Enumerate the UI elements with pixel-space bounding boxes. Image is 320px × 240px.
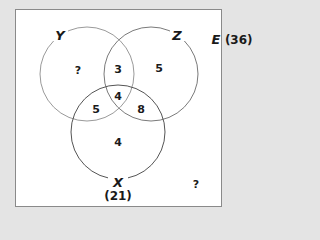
region-outside: ? bbox=[193, 179, 199, 190]
region-x-z-only: 8 bbox=[137, 104, 145, 115]
set-label-x: X bbox=[113, 176, 123, 189]
set-label-y: Y bbox=[55, 29, 64, 42]
universe-label: E (36) bbox=[211, 33, 252, 46]
region-x-y-z: 4 bbox=[114, 91, 122, 102]
region-y-z-only: 3 bbox=[114, 64, 122, 75]
region-y-only: ? bbox=[75, 65, 81, 76]
set-x-total: (21) bbox=[104, 190, 132, 202]
region-z-only: 5 bbox=[155, 63, 163, 74]
region-x-only: 4 bbox=[114, 137, 122, 148]
region-x-y-only: 5 bbox=[92, 104, 100, 115]
set-label-z: Z bbox=[172, 29, 181, 42]
